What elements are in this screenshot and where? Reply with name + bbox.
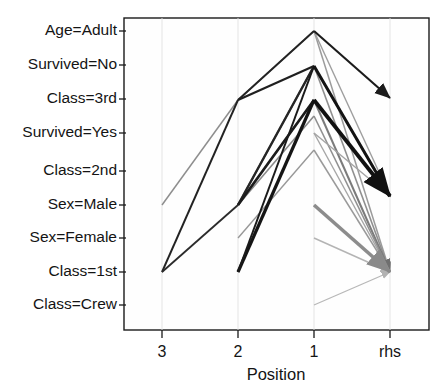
figure-root: Age=Adult Survived=No Class=3rd Survived… [0, 0, 433, 384]
x-tick-label: rhs [379, 343, 401, 360]
y-tick-label: Sex=Female [30, 228, 117, 245]
y-tick-label: Survived=Yes [22, 123, 117, 140]
y-tick-label: Sex=Male [48, 195, 117, 212]
x-axis-ticks [162, 330, 390, 338]
x-axis-title: Position [247, 365, 306, 383]
y-tick-label: Age=Adult [45, 21, 118, 38]
y-tick-label: Class=2nd [43, 161, 117, 178]
x-axis-labels: 3 2 1 rhs [158, 343, 402, 360]
x-tick-label: 2 [234, 343, 243, 360]
y-tick-label: Class=3rd [47, 89, 117, 106]
y-tick-label: Class=1st [49, 262, 118, 279]
parallel-coordinates-chart: Age=Adult Survived=No Class=3rd Survived… [0, 0, 433, 384]
x-tick-label: 3 [158, 343, 167, 360]
y-tick-label: Class=Crew [33, 295, 118, 312]
x-tick-label: 1 [310, 343, 319, 360]
y-tick-label: Survived=No [28, 55, 117, 72]
y-axis-labels: Age=Adult Survived=No Class=3rd Survived… [22, 21, 117, 312]
